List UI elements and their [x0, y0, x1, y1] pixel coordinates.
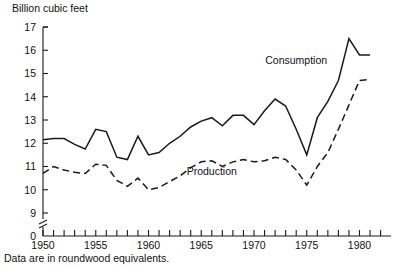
y-tick-label: 11 — [25, 160, 36, 172]
y-tick-label: 16 — [24, 44, 36, 56]
y-tick-label: 14 — [24, 91, 36, 103]
y-axis-ticks: 171615141312111090 — [24, 21, 48, 242]
x-tick-label: 1960 — [137, 239, 161, 251]
forest-products-line-chart: Billion cubic feet 171615141312111090 19… — [0, 0, 403, 267]
x-tick-label: 1965 — [190, 239, 214, 251]
chart-footnote: Data are in roundwood equivalents. — [4, 252, 169, 264]
x-tick-label: 1955 — [84, 239, 108, 251]
x-axis-ticks: 1950195519601965197019751980 — [31, 230, 380, 251]
y-tick-label: 12 — [24, 137, 36, 149]
y-tick-label: 15 — [24, 67, 36, 79]
axis-lines — [39, 27, 391, 236]
series-label-consumption: Consumption — [265, 54, 327, 66]
x-tick-label: 1975 — [295, 239, 319, 251]
x-tick-label: 1970 — [242, 239, 266, 251]
y-tick-label: 13 — [24, 114, 36, 126]
y-axis-title: Billion cubic feet — [12, 2, 88, 14]
y-tick-label: 17 — [24, 21, 36, 33]
series-label-production: Production — [187, 165, 237, 177]
y-tick-label: 10 — [24, 184, 36, 196]
axis-break-slash-upper — [39, 220, 47, 224]
series-labels: ConsumptionProduction — [187, 54, 328, 176]
x-tick-label: 1980 — [348, 239, 372, 251]
chart-page: Billion cubic feet 171615141312111090 19… — [0, 0, 403, 267]
y-tick-label: 9 — [30, 207, 36, 219]
x-tick-label: 1950 — [31, 239, 55, 251]
